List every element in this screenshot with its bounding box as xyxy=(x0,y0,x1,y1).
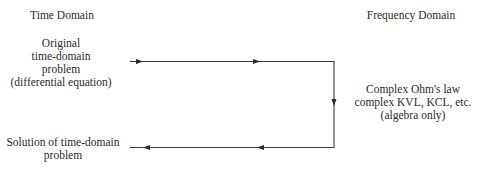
flow-diagram xyxy=(0,0,478,171)
arrow-right-icon xyxy=(136,59,143,64)
arrow-left-icon xyxy=(257,145,264,150)
arrow-right-icon xyxy=(253,59,260,64)
flow-path xyxy=(130,62,334,148)
arrow-down-icon xyxy=(332,99,337,106)
arrow-left-icon xyxy=(143,145,150,150)
